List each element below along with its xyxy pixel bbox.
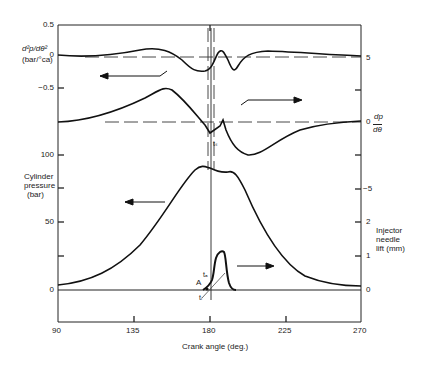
d2p-curve	[58, 49, 361, 72]
lift-tick-2: 2	[366, 217, 370, 227]
dp-tick-0: 0	[366, 117, 370, 127]
dp-axis-title-den: dθ	[373, 124, 382, 135]
arrows	[100, 71, 302, 269]
d2p-tick-0-5: 0.5	[30, 20, 54, 30]
lift-tick-0: 0	[366, 285, 370, 295]
lift-axis-title-line3: lift (mm)	[376, 244, 405, 254]
x-axis-title: Crank angle (deg.)	[182, 342, 248, 352]
x-tick-225: 225	[278, 326, 291, 336]
cylinder-pressure-curve	[58, 166, 361, 286]
pressure-tick-100: 100	[24, 150, 54, 160]
d2p-tick-minus-0-5: −0.5	[24, 83, 54, 93]
chart-canvas	[0, 0, 426, 366]
dp-tick-minus-5: −5	[363, 184, 372, 194]
right-ticks	[355, 90, 361, 256]
annotation-a: A	[196, 278, 201, 288]
annotation-ti: tᵢ	[199, 293, 202, 303]
lift-tick-1: 1	[366, 251, 370, 261]
dp-axis-title-num: dp	[374, 112, 383, 122]
pressure-tick-50: 50	[24, 217, 54, 227]
x-ticks	[134, 25, 286, 322]
x-tick-90: 90	[52, 326, 61, 336]
x-tick-270: 270	[353, 326, 366, 336]
left-ticks	[58, 88, 64, 256]
dashed-reference-lines	[85, 28, 361, 170]
pressure-axis-title-line3: (bar)	[27, 190, 44, 200]
dp-tick-5: 5	[366, 53, 370, 63]
x-tick-180: 180	[202, 326, 215, 336]
point-a-marker	[205, 287, 208, 290]
d2p-tick-0: 0	[30, 50, 54, 60]
annotation-ta: tₐ	[203, 270, 208, 280]
x-tick-135: 135	[126, 326, 139, 336]
annotation-ts: tₛ	[213, 139, 218, 149]
pressure-tick-0: 0	[24, 285, 54, 295]
